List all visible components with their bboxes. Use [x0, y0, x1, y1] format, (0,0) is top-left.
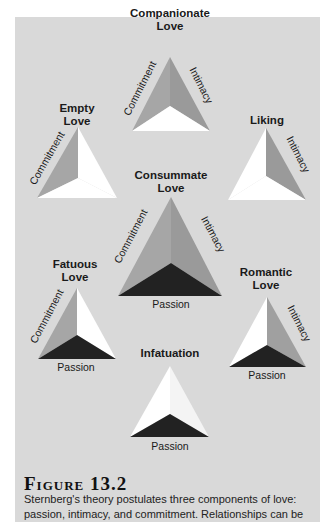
- triangle-consummate: Consummate Love Commitment Intimacy Pass…: [111, 169, 228, 310]
- love-triangle-diagram: Companionate Love Commitment Intimacy Em…: [0, 0, 334, 522]
- label-fatuous-1: Fatuous: [53, 258, 98, 270]
- label-consummate-1: Consummate: [135, 169, 208, 181]
- side-intimacy: Intimacy: [199, 214, 228, 255]
- label-consummate-2: Love: [158, 182, 185, 194]
- side-passion: Passion: [152, 298, 190, 310]
- label-liking: Liking: [250, 114, 284, 126]
- side-passion: Passion: [151, 440, 189, 452]
- label-infatuation: Infatuation: [141, 347, 200, 359]
- caption-line-2: passion, intimacy, and commitment. Relat…: [24, 507, 324, 522]
- label-romantic-1: Romantic: [240, 266, 293, 278]
- label-empty-1: Empty: [59, 102, 95, 114]
- triangle-liking: Liking Intimacy: [228, 114, 313, 200]
- triangle-empty: Empty Love Commitment: [26, 102, 117, 198]
- triangle-fatuous: Fatuous Love Commitment Passion: [27, 258, 116, 373]
- side-passion: Passion: [248, 369, 286, 381]
- figure-caption: Sternberg's theory postulates three comp…: [24, 492, 324, 522]
- caption-line-1: Sternberg's theory postulates three comp…: [24, 492, 324, 507]
- label-companionate-1: Companionate: [130, 7, 210, 19]
- triangle-romantic: Romantic Love Intimacy Passion: [229, 266, 314, 381]
- triangle-companionate: Companionate Love Commitment Intimacy: [121, 7, 217, 131]
- label-romantic-2: Love: [253, 279, 280, 291]
- triangle-infatuation: Infatuation Passion: [130, 347, 209, 452]
- label-companionate-2: Love: [157, 20, 184, 32]
- side-passion: Passion: [57, 361, 95, 373]
- label-fatuous-2: Love: [62, 271, 89, 283]
- label-empty-2: Love: [64, 115, 91, 127]
